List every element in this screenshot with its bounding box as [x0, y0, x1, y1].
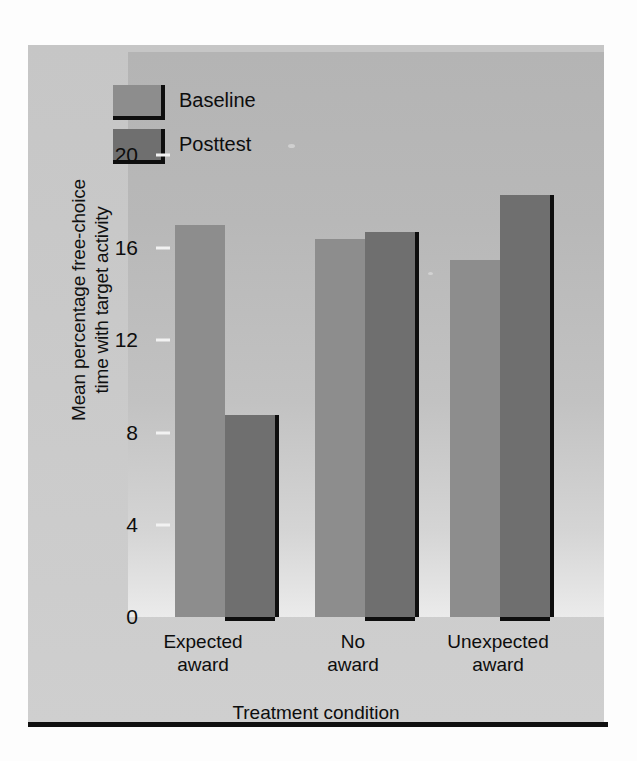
x-axis-title: Treatment condition	[28, 702, 604, 724]
bar-series-container	[28, 45, 604, 725]
page-bottom-rule	[28, 722, 608, 727]
scanned-page: Baseline Posttest Mean percentage free-c…	[0, 0, 637, 761]
bar-no-award-baseline	[315, 239, 365, 617]
x-group-line1: No	[341, 631, 365, 652]
bar-expected-award-baseline	[175, 225, 225, 617]
bar-unexpected-award-posttest	[500, 195, 550, 617]
x-axis-group-label-unexpected-award: Unexpected award	[418, 630, 578, 676]
bar-no-award-posttest	[365, 232, 415, 617]
bar-expected-award-posttest	[225, 415, 275, 617]
x-group-line2: award	[283, 653, 423, 676]
figure-card: Baseline Posttest Mean percentage free-c…	[28, 45, 604, 725]
x-group-line2: award	[418, 653, 578, 676]
x-group-line1: Unexpected	[447, 631, 548, 652]
x-axis-group-label-no-award: No award	[283, 630, 423, 676]
x-group-line1: Expected	[163, 631, 242, 652]
x-axis-group-label-expected-award: Expected award	[123, 630, 283, 676]
bar-unexpected-award-baseline	[450, 260, 500, 617]
x-group-line2: award	[123, 653, 283, 676]
